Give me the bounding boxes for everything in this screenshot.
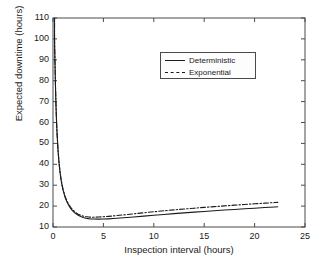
x-tick-label: 0 (38, 231, 68, 241)
y-tick-label: 60 (21, 117, 49, 127)
x-tick-label: 25 (290, 231, 320, 241)
y-tick-label: 80 (21, 75, 49, 85)
legend-line-solid-icon (165, 60, 185, 61)
x-tick-label: 5 (88, 231, 118, 241)
legend: Deterministic Exponential (160, 52, 256, 79)
y-tick-label: 70 (21, 96, 49, 106)
x-tick-label: 20 (240, 231, 270, 241)
y-tick-label: 50 (21, 137, 49, 147)
y-tick-label: 10 (21, 221, 49, 231)
y-tick-label: 100 (21, 33, 49, 43)
y-tick-label: 90 (21, 54, 49, 64)
y-tick-label: 40 (21, 158, 49, 168)
figure: Expected downtime (hours) Inspection int… (0, 0, 325, 271)
y-tick-label: 20 (21, 200, 49, 210)
y-tick-label: 110 (21, 12, 49, 22)
legend-label: Exponential (189, 67, 231, 79)
x-tick-label: 10 (139, 231, 169, 241)
x-tick-label: 15 (189, 231, 219, 241)
legend-item-exponential: Exponential (161, 66, 257, 79)
legend-line-dashdot-icon (165, 72, 185, 73)
plot-frame (53, 18, 305, 227)
x-axis-label: Inspection interval (hours) (53, 244, 305, 255)
y-tick-label: 30 (21, 179, 49, 189)
